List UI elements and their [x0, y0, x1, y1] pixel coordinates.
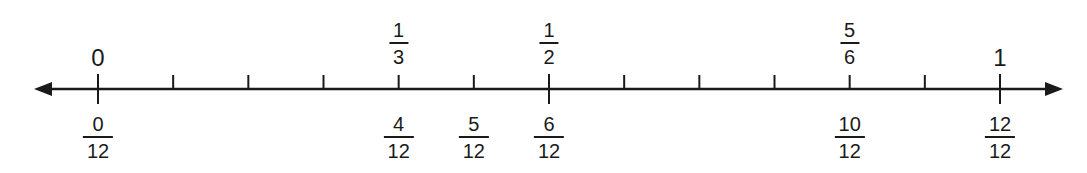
denominator: 12 — [459, 141, 489, 161]
denominator: 12 — [534, 141, 564, 161]
fraction-bar — [389, 42, 408, 44]
denominator: 12 — [384, 141, 414, 161]
numerator: 10 — [835, 114, 865, 134]
numerator: 1 — [389, 20, 408, 40]
fraction-bar — [840, 42, 859, 44]
bottom-fraction-0-12: 012 — [83, 114, 113, 161]
whole-label-1: 1 — [993, 46, 1006, 70]
denominator: 6 — [840, 47, 859, 67]
numerator: 4 — [389, 114, 408, 134]
denominator: 12 — [985, 141, 1015, 161]
top-fraction-5-6: 56 — [840, 20, 859, 67]
numerator: 0 — [88, 114, 107, 134]
bottom-fraction-5-12: 512 — [459, 114, 489, 161]
fraction-bar — [83, 136, 113, 138]
fraction-bar — [384, 136, 414, 138]
top-fraction-1-3: 13 — [389, 20, 408, 67]
numerator: 5 — [840, 20, 859, 40]
bottom-fraction-6-12: 612 — [534, 114, 564, 161]
denominator: 2 — [539, 47, 558, 67]
numerator: 6 — [539, 114, 558, 134]
denominator: 12 — [83, 141, 113, 161]
numerator: 5 — [464, 114, 483, 134]
denominator: 12 — [835, 141, 865, 161]
left-arrow-icon — [34, 82, 52, 96]
fraction-bar — [459, 136, 489, 138]
bottom-fraction-10-12: 1012 — [835, 114, 865, 161]
numerator: 12 — [985, 114, 1015, 134]
fraction-bar — [534, 136, 564, 138]
fraction-bar — [835, 136, 865, 138]
denominator: 3 — [389, 47, 408, 67]
bottom-fraction-4-12: 412 — [384, 114, 414, 161]
whole-label-0: 0 — [91, 46, 104, 70]
right-arrow-icon — [1045, 82, 1063, 96]
fraction-bar — [539, 42, 558, 44]
numerator: 1 — [539, 20, 558, 40]
bottom-fraction-12-12: 1212 — [985, 114, 1015, 161]
top-fraction-1-2: 12 — [539, 20, 558, 67]
fraction-bar — [985, 136, 1015, 138]
